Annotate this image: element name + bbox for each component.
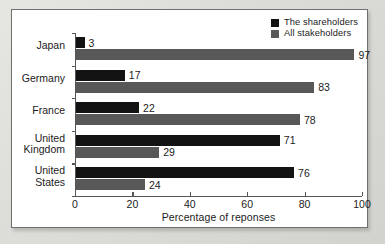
x-axis-line (75, 196, 362, 197)
x-axis-tick (132, 192, 133, 196)
category-label-line: States (35, 175, 65, 187)
legend-label-shareholders: The shareholders (284, 18, 358, 27)
bar-value-label: 24 (149, 179, 161, 191)
bar-value-label: 29 (163, 146, 175, 158)
legend-item-all-stakeholders: All stakeholders (271, 29, 358, 38)
bar-value-label: 78 (304, 114, 316, 126)
bar-value-label: 83 (318, 81, 330, 93)
bar-value-label: 17 (129, 69, 141, 81)
bar-united-kingdom-shareholders: 71 (76, 135, 280, 146)
x-tick-label: 100 (353, 198, 371, 210)
category-label-united-kingdom: UnitedKingdom (0, 132, 65, 155)
bar-france-shareholders: 22 (76, 102, 139, 113)
x-axis-title: Percentage of reponses (75, 211, 362, 223)
bar-france-stakeholders: 78 (76, 114, 300, 125)
x-tick-label: 20 (127, 198, 139, 210)
category-label-line: United (35, 131, 65, 143)
bar-japan-shareholders: 3 (76, 37, 85, 48)
category-label-germany: Germany (0, 73, 65, 85)
x-tick-label: 0 (72, 198, 78, 210)
x-axis-tick (305, 192, 306, 196)
x-tick-label: 80 (299, 198, 311, 210)
legend-swatch-icon-stakeholders (271, 30, 279, 38)
category-label-line: Kingdom (24, 143, 65, 155)
bar-value-label: 71 (284, 134, 296, 146)
category-label-france: France (0, 105, 65, 117)
legend-swatch-icon-shareholders (271, 19, 279, 27)
bar-germany-shareholders: 17 (76, 70, 125, 81)
y-axis-tick (72, 33, 76, 34)
bar-value-label: 97 (358, 49, 370, 61)
category-label-line: United (35, 164, 65, 176)
y-axis-tick (72, 163, 76, 164)
bar-japan-stakeholders: 97 (76, 49, 354, 60)
chart-legend: The shareholders All stakeholders (271, 18, 358, 39)
legend-item-the-shareholders: The shareholders (271, 18, 358, 27)
category-label-japan: Japan (0, 40, 65, 52)
x-axis-tick (75, 192, 76, 196)
x-tick-label: 40 (184, 198, 196, 210)
y-axis-tick (72, 98, 76, 99)
screenshot-page: The shareholders All stakeholders (0, 0, 385, 244)
chart-figure: The shareholders All stakeholders (11, 9, 368, 228)
x-tick-label: 60 (241, 198, 253, 210)
bar-united-states-shareholders: 76 (76, 167, 294, 178)
y-axis-tick (72, 66, 76, 67)
bar-value-label: 22 (143, 102, 155, 114)
bar-united-states-stakeholders: 24 (76, 179, 145, 190)
bar-value-label: 3 (89, 37, 95, 49)
y-axis-tick (72, 131, 76, 132)
category-label-united-states: UnitedStates (0, 165, 65, 188)
x-axis-tick (362, 192, 363, 196)
bar-germany-stakeholders: 83 (76, 82, 314, 93)
legend-label-stakeholders: All stakeholders (284, 29, 351, 38)
x-axis-tick (190, 192, 191, 196)
bar-united-kingdom-stakeholders: 29 (76, 147, 159, 158)
x-axis-tick (247, 192, 248, 196)
bar-value-label: 76 (298, 167, 310, 179)
plot-area: The shareholders All stakeholders (12, 10, 367, 227)
